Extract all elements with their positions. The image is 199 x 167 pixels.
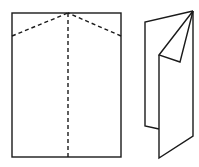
flat-sheet [12, 13, 121, 157]
folded-flap [159, 11, 193, 62]
sheet-outline [12, 13, 121, 157]
left-diagonal-fold-line [12, 13, 68, 36]
folded-form [145, 11, 193, 158]
folding-diagram [0, 0, 199, 167]
right-diagonal-fold-line [68, 13, 121, 36]
back-panel-edge [145, 11, 193, 129]
